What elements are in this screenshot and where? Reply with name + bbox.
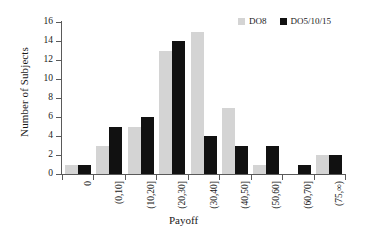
- x-axis-tick-label: (30,40]: [209, 181, 220, 236]
- legend-label: DO8: [249, 16, 267, 26]
- bar: [191, 32, 204, 175]
- x-axis-tick: [314, 175, 315, 180]
- y-axis-tick-label: 2: [48, 149, 53, 160]
- x-axis-tick-label: (60,70]: [303, 181, 314, 236]
- bar: [159, 51, 172, 175]
- x-axis-tick: [93, 175, 94, 180]
- bar: [266, 146, 279, 175]
- legend-swatch: [238, 18, 245, 25]
- y-axis-tick-label: 8: [48, 92, 53, 103]
- bar-group: [96, 22, 122, 174]
- bar-group: [222, 22, 248, 174]
- legend-entry: DO8: [238, 16, 267, 26]
- bar: [316, 155, 329, 174]
- y-axis-tick-label: 16: [44, 16, 54, 27]
- x-axis-tick: [219, 175, 220, 180]
- bar-group: [285, 22, 311, 174]
- bar-chart-figure: Number of Subjects 0246810121416 0(0,10]…: [0, 0, 367, 236]
- bar: [96, 146, 109, 175]
- bar: [329, 155, 342, 174]
- y-axis-tick-label: 6: [48, 111, 53, 122]
- x-axis-tick: [345, 175, 346, 180]
- x-axis-tick-label: (40,50]: [240, 181, 251, 236]
- x-axis-tick: [156, 175, 157, 180]
- bar: [204, 136, 217, 174]
- legend-entry: DO5/10/15: [280, 16, 332, 26]
- bar: [298, 165, 311, 175]
- y-axis-tick-label: 0: [48, 168, 53, 179]
- x-axis-tick-label: (20,30]: [177, 181, 188, 236]
- plot-area: [62, 22, 345, 174]
- x-axis-tick: [62, 175, 63, 180]
- legend-label: DO5/10/15: [291, 16, 332, 26]
- y-axis-tick-label: 12: [44, 54, 54, 65]
- x-axis-tick-label: 0: [83, 181, 94, 236]
- x-axis-tick-label: (0,10]: [114, 181, 125, 236]
- bar: [78, 165, 91, 175]
- bar: [253, 165, 266, 175]
- bar-group: [128, 22, 154, 174]
- bar-group: [253, 22, 279, 174]
- y-axis-tick-label: 4: [48, 130, 53, 141]
- bar: [141, 117, 154, 174]
- bar-group: [159, 22, 185, 174]
- bar: [128, 127, 141, 175]
- bar: [65, 165, 78, 175]
- bar: [235, 146, 248, 175]
- bar-group: [65, 22, 91, 174]
- bar-group: [191, 22, 217, 174]
- legend-swatch: [280, 18, 287, 25]
- bar: [222, 108, 235, 175]
- x-axis-tick-label: (10,20]: [146, 181, 157, 236]
- x-axis-line: [61, 174, 346, 175]
- x-axis-tick: [188, 175, 189, 180]
- x-axis-title: Payoff: [0, 214, 367, 226]
- y-axis-title: Number of Subjects: [18, 12, 30, 172]
- y-axis-tick-label: 14: [44, 35, 54, 46]
- x-axis-tick-label: (50,60]: [271, 181, 282, 236]
- x-axis-tick: [282, 175, 283, 180]
- y-axis-tick-label: 10: [44, 73, 54, 84]
- x-axis-tick-label: (75,∞): [334, 181, 345, 236]
- x-axis-tick: [125, 175, 126, 180]
- x-axis-tick: [251, 175, 252, 180]
- chart-legend: DO8DO5/10/15: [238, 16, 331, 26]
- bar: [109, 127, 122, 175]
- bar: [172, 41, 185, 174]
- bar-group: [316, 22, 342, 174]
